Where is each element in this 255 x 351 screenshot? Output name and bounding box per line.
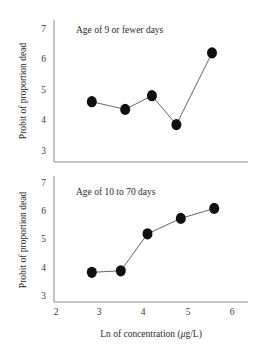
x-axis-title-tail: g/L): [185, 329, 201, 340]
probit-figure: 7 6 5 4 3 Probit of proportion dead Age …: [0, 0, 255, 351]
bottom-panel: 7 6 5 4 3 2 3 4 5 6 Probit of proportion…: [18, 176, 248, 340]
bottom-x-tick-2: 2: [54, 307, 59, 317]
top-y-tick-3: 3: [41, 146, 46, 156]
bottom-series-line: [92, 208, 214, 272]
bottom-data-point: [116, 265, 126, 276]
bottom-y-axis-title: Probit of proportion dead: [18, 192, 28, 289]
top-data-point: [87, 96, 97, 107]
bottom-x-tick-4: 4: [141, 307, 146, 317]
bottom-y-tick-3: 3: [41, 291, 46, 301]
bottom-y-tick-7: 7: [41, 178, 46, 188]
bottom-x-tick-5: 5: [186, 307, 191, 317]
top-y-tick-7: 7: [41, 24, 46, 34]
top-y-tick-6: 6: [41, 54, 46, 64]
bottom-x-tick-6: 6: [230, 307, 235, 317]
top-panel: 7 6 5 4 3 Probit of proportion dead Age …: [18, 20, 248, 162]
probit-chart-svg: 7 6 5 4 3 Probit of proportion dead Age …: [0, 0, 255, 351]
top-y-tick-5: 5: [41, 85, 46, 95]
top-y-axis-title: Probit of proportion dead: [18, 43, 28, 140]
bottom-data-point: [143, 228, 153, 239]
bottom-y-tick-4: 4: [41, 263, 46, 273]
top-data-point: [207, 47, 217, 58]
top-data-point: [147, 90, 157, 101]
top-data-point: [120, 104, 130, 115]
bottom-panel-title: Age of 10 to 70 days: [76, 187, 156, 197]
x-axis-title: Ln of concentration (μg/L): [100, 329, 202, 340]
bottom-data-point: [87, 267, 97, 278]
bottom-y-tick-5: 5: [41, 234, 46, 244]
top-series-line: [92, 53, 212, 125]
bottom-x-tick-3: 3: [97, 307, 102, 317]
top-data-point: [171, 119, 181, 130]
bottom-data-point: [209, 203, 219, 214]
top-panel-title: Age of 9 or fewer days: [76, 25, 164, 35]
top-y-tick-4: 4: [41, 115, 46, 125]
bottom-y-tick-6: 6: [41, 206, 46, 216]
bottom-data-point: [176, 213, 186, 224]
x-axis-title-head: Ln of concentration (: [100, 329, 180, 340]
